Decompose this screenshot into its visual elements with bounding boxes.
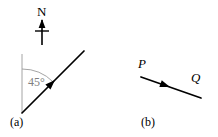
figure-root: N 45° (a) P Q (b) — [0, 0, 218, 137]
point-label-p: P — [138, 57, 146, 70]
north-label: N — [37, 5, 46, 18]
north-arrow-head — [39, 19, 46, 28]
panel-caption-b: (b) — [141, 116, 155, 128]
angle-label-45: 45° — [28, 76, 45, 88]
panel-caption-a: (a) — [10, 116, 23, 128]
panel-a-graphics — [22, 19, 84, 113]
figure-canvas — [0, 0, 218, 137]
point-label-q: Q — [191, 71, 200, 84]
displacement-vector-arrowhead — [159, 80, 170, 87]
